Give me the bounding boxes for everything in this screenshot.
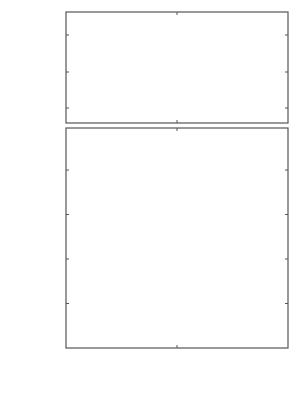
bottom-panel-frame — [66, 128, 288, 348]
bottom-y-ticks — [66, 128, 288, 348]
top-y-ticks — [66, 12, 288, 123]
dispersion-chart — [0, 0, 304, 398]
top-panel-frame — [66, 12, 288, 123]
